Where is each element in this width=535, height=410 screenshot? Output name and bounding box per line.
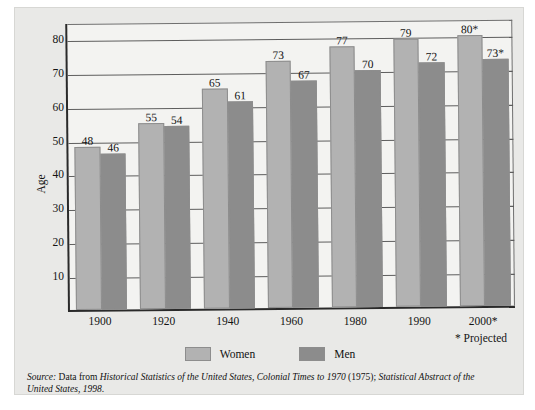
bar-value-label: 79 — [400, 27, 412, 39]
bar-group: 7972 — [393, 20, 447, 306]
bar-value-label: 65 — [209, 76, 221, 88]
source-note: Source: Data from Historical Statistics … — [27, 372, 497, 395]
bar-men[interactable]: 73* — [483, 58, 511, 306]
bar-group: 7770 — [329, 21, 383, 307]
bar-value-label: 54 — [171, 114, 183, 126]
bar-women[interactable]: 65 — [202, 88, 230, 308]
x-axis-tick-label: 1900 — [88, 315, 111, 327]
legend-swatch-women-icon — [185, 347, 211, 361]
x-axis-tick-label: 1940 — [216, 315, 239, 327]
y-axis-tick-label: 80 — [53, 33, 65, 45]
y-axis-tick-label: 50 — [53, 135, 65, 147]
bar-value-label: 70 — [362, 58, 374, 70]
bar-group: 6561 — [201, 22, 255, 308]
bar-women[interactable]: 77 — [329, 46, 357, 307]
y-axis-tick-label: 10 — [53, 270, 65, 282]
plot-area: 48465554656173677770797280*73* — [65, 20, 515, 312]
x-axis-tick-label: 1990 — [408, 315, 431, 327]
y-axis-tick-labels: 1020304050607080 — [27, 24, 64, 312]
bar-value-label: 73* — [487, 46, 504, 58]
y-axis-tick-label: 60 — [53, 101, 65, 113]
bar-women[interactable]: 80* — [457, 35, 485, 306]
y-axis-tick-label: 20 — [53, 236, 65, 248]
bar-value-label: 77 — [336, 34, 348, 46]
bar-value-label: 61 — [235, 90, 247, 102]
legend: Women Men — [15, 347, 525, 361]
legend-entry-women: Women — [185, 347, 255, 361]
figure-panel: Age 1020304050607080 4846555465617367777… — [14, 7, 524, 395]
bar-group: 7367 — [265, 22, 319, 308]
bar-group: 4846 — [74, 23, 128, 309]
bar-value-label: 67 — [298, 69, 310, 81]
x-axis-tick-label: 2000* — [469, 315, 498, 327]
bar-value-label: 48 — [82, 135, 94, 147]
x-axis-tick-labels: 1900192019401960198019902000* — [68, 315, 515, 333]
figure: Age 1020304050607080 4846555465617367777… — [0, 0, 535, 410]
bar-men[interactable]: 67 — [291, 81, 319, 308]
bar-group: 80*73* — [457, 20, 511, 306]
x-axis-tick-label: 1980 — [344, 315, 367, 327]
y-axis-tick-label: 70 — [53, 67, 65, 79]
bar-men[interactable]: 61 — [228, 102, 256, 309]
legend-swatch-men-icon — [299, 347, 325, 361]
bar-women[interactable]: 48 — [75, 147, 102, 310]
x-axis-tick-label: 1920 — [152, 315, 175, 327]
bar-group: 5554 — [137, 23, 191, 309]
bar-series-container: 48465554656173677770797280*73* — [67, 20, 515, 310]
x-axis-tick-label: 1960 — [280, 315, 303, 327]
y-axis-tick-label: 40 — [53, 168, 65, 180]
projected-note: * Projected — [455, 332, 507, 344]
bar-value-label: 73 — [272, 49, 284, 61]
y-axis-tick-label: 30 — [53, 202, 65, 214]
bar-men[interactable]: 70 — [355, 70, 383, 307]
bar-value-label: 80* — [461, 23, 478, 35]
legend-label-men: Men — [334, 348, 355, 360]
bar-women[interactable]: 73 — [266, 61, 294, 309]
bar-men[interactable]: 54 — [164, 126, 191, 309]
bar-women[interactable]: 55 — [138, 123, 165, 310]
bar-men[interactable]: 46 — [100, 154, 127, 310]
bar-men[interactable]: 72 — [419, 62, 447, 306]
bar-value-label: 55 — [145, 111, 157, 123]
bar-women[interactable]: 79 — [393, 39, 421, 307]
legend-label-women: Women — [220, 348, 255, 360]
bar-value-label: 46 — [107, 142, 119, 154]
bar-value-label: 72 — [426, 51, 438, 63]
legend-entry-men: Men — [299, 347, 355, 361]
